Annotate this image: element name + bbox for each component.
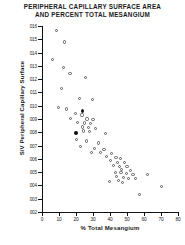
data-point: [114, 171, 117, 174]
data-point: [82, 129, 85, 132]
data-point: [75, 138, 78, 141]
data-point: [104, 132, 107, 135]
data-point: [134, 177, 137, 180]
data-point: [102, 148, 105, 151]
data-point: [91, 118, 94, 121]
data-point: [81, 125, 84, 128]
data-point: [60, 87, 63, 90]
data-point: [90, 151, 93, 154]
data-point: [76, 121, 79, 124]
data-point: [91, 98, 94, 101]
scatter-chart: PERIPHERAL CAPILLARY SURFACE AREA AND PE…: [0, 0, 185, 245]
data-point: [146, 173, 149, 176]
data-point: [110, 152, 113, 155]
data-point: [69, 117, 72, 120]
data-points-layer: [0, 0, 185, 245]
data-point: [97, 141, 100, 144]
data-point: [122, 176, 125, 179]
data-point: [115, 175, 118, 178]
data-point: [87, 126, 90, 129]
data-point: [65, 107, 68, 110]
data-point: [129, 169, 132, 172]
data-point: [74, 131, 77, 134]
data-point: [121, 181, 124, 184]
data-point: [68, 72, 71, 75]
data-point: [127, 177, 130, 180]
data-point: [63, 40, 66, 43]
data-point: [112, 164, 115, 167]
data-point: [116, 161, 119, 164]
data-point: [108, 180, 111, 183]
data-point: [105, 155, 108, 158]
data-point: [123, 161, 126, 164]
data-point: [55, 29, 58, 32]
data-point: [114, 156, 117, 159]
data-point: [88, 130, 91, 133]
data-point: [93, 147, 96, 150]
data-point: [83, 121, 86, 124]
data-point: [125, 165, 128, 168]
data-point: [74, 112, 77, 115]
data-point: [131, 173, 134, 176]
data-point: [62, 66, 65, 69]
data-point: [51, 58, 54, 61]
data-point: [119, 157, 122, 160]
data-point: [119, 171, 122, 174]
data-point: [89, 122, 92, 125]
data-point: [125, 172, 128, 175]
data-point: [78, 97, 81, 100]
data-point: [79, 145, 82, 148]
data-point: [109, 159, 112, 162]
data-point: [94, 127, 97, 130]
data-point: [160, 185, 163, 188]
data-point: [117, 179, 120, 182]
data-point: [99, 151, 102, 154]
data-point: [84, 76, 87, 79]
data-point: [138, 193, 141, 196]
data-point: [80, 113, 83, 116]
data-point: [85, 139, 88, 142]
data-point: [85, 117, 88, 120]
data-point: [57, 106, 60, 109]
data-point: [81, 109, 84, 112]
